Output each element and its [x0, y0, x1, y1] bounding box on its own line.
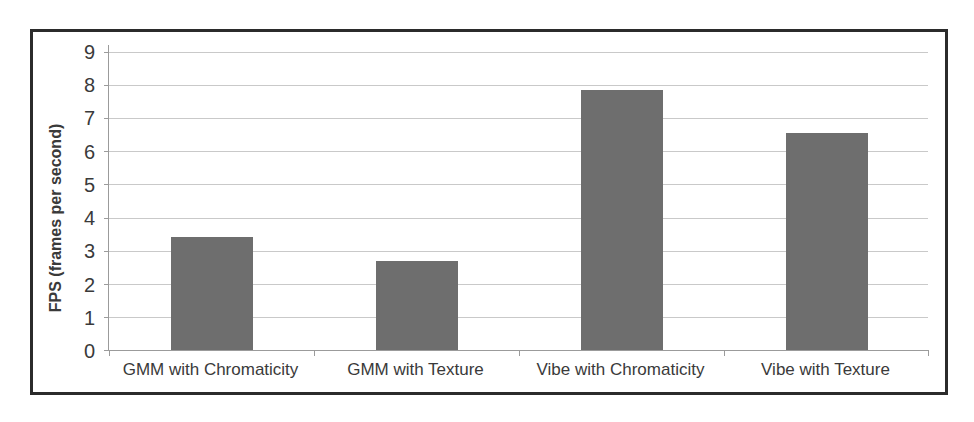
y-tick-label-2: 2 — [63, 274, 95, 296]
bar-vibe-with-texture — [786, 133, 868, 350]
gridline-8 — [109, 85, 928, 86]
plot-area — [108, 52, 928, 351]
y-tick-label-3: 3 — [63, 240, 95, 262]
y-tick-mark-8 — [104, 85, 109, 86]
y-tick-label-0: 0 — [63, 340, 95, 362]
x-category-label-vibe-with-chromaticity: Vibe with Chromaticity — [518, 360, 723, 380]
bar-gmm-with-chromaticity — [171, 237, 253, 350]
y-tick-label-8: 8 — [63, 74, 95, 96]
y-tick-mark-1 — [104, 317, 109, 318]
x-tick-mark-0 — [109, 350, 110, 356]
y-tick-label-9: 9 — [63, 41, 95, 63]
x-tick-mark-4 — [928, 350, 929, 356]
y-tick-mark-4 — [104, 218, 109, 219]
y-tick-label-7: 7 — [63, 107, 95, 129]
bar-gmm-with-texture — [376, 261, 458, 350]
y-tick-label-5: 5 — [63, 174, 95, 196]
x-category-label-gmm-with-chromaticity: GMM with Chromaticity — [108, 360, 313, 380]
y-tick-mark-2 — [104, 284, 109, 285]
x-tick-mark-2 — [519, 350, 520, 356]
bar-vibe-with-chromaticity — [581, 90, 663, 350]
y-tick-label-6: 6 — [63, 141, 95, 163]
y-tick-mark-3 — [104, 251, 109, 252]
y-tick-mark-5 — [104, 184, 109, 185]
x-tick-mark-3 — [724, 350, 725, 356]
gridline-7 — [109, 118, 928, 119]
y-tick-label-4: 4 — [63, 207, 95, 229]
gridline-9 — [109, 52, 928, 53]
y-axis-line-cap — [108, 45, 109, 52]
x-category-label-vibe-with-texture: Vibe with Texture — [723, 360, 928, 380]
chart-frame: FPS (frames per second) 0123456789 GMM w… — [30, 29, 948, 395]
x-tick-mark-1 — [314, 350, 315, 356]
x-category-label-gmm-with-texture: GMM with Texture — [313, 360, 518, 380]
y-tick-label-1: 1 — [63, 307, 95, 329]
y-tick-mark-6 — [104, 151, 109, 152]
y-tick-mark-9 — [104, 52, 109, 53]
y-tick-mark-7 — [104, 118, 109, 119]
scanned-figure-page: { "chart_data": { "type": "bar", "catego… — [0, 0, 974, 422]
